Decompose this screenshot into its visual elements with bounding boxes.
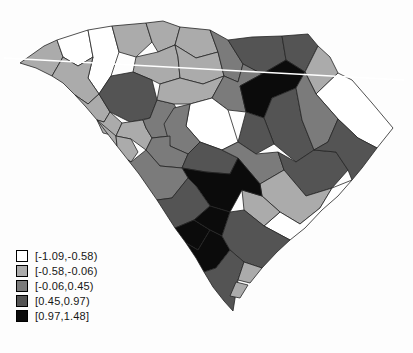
legend-item-3: [0.45,0.97) — [16, 295, 98, 307]
legend-swatch-3 — [16, 295, 28, 307]
legend-item-0: [-1.09,-0.58) — [16, 250, 98, 262]
map-legend: [-1.09,-0.58)[-0.58,-0.06)[-0.06,0.45)[0… — [16, 250, 98, 322]
choropleth-figure: [-1.09,-0.58)[-0.58,-0.06)[-0.06,0.45)[0… — [0, 0, 413, 353]
legend-item-1: [-0.58,-0.06) — [16, 265, 98, 277]
legend-item-2: [-0.06,0.45) — [16, 280, 98, 292]
legend-label-3: [0.45,0.97) — [35, 295, 90, 307]
legend-label-4: [0.97,1.48] — [35, 310, 89, 322]
legend-swatch-1 — [16, 265, 28, 277]
legend-label-0: [-1.09,-0.58) — [35, 250, 98, 262]
legend-item-4: [0.97,1.48] — [16, 310, 98, 322]
legend-label-1: [-0.58,-0.06) — [35, 265, 98, 277]
legend-label-2: [-0.06,0.45) — [35, 280, 94, 292]
legend-swatch-2 — [16, 280, 28, 292]
legend-swatch-0 — [16, 250, 28, 262]
legend-swatch-4 — [16, 310, 28, 322]
